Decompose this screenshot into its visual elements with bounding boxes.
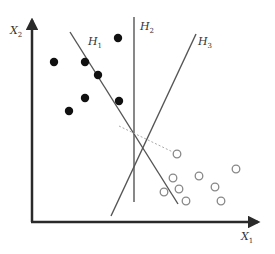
- class-filled-points: [50, 34, 123, 115]
- open-point: [160, 188, 168, 196]
- filled-point: [50, 58, 58, 66]
- hyperplanes: H1H2H3: [70, 17, 212, 216]
- open-point: [175, 185, 183, 193]
- open-point: [217, 197, 225, 205]
- open-point: [182, 197, 190, 205]
- hyperplane-h1: [70, 32, 178, 204]
- margin-line: [119, 126, 177, 154]
- margin-dashed-line: [119, 126, 177, 154]
- open-point: [232, 165, 240, 173]
- filled-point: [81, 58, 89, 66]
- hyperplane-label-h1: H1: [87, 35, 102, 50]
- open-point: [169, 174, 177, 182]
- open-point: [211, 183, 219, 191]
- filled-point: [115, 97, 123, 105]
- filled-point: [65, 107, 73, 115]
- filled-point: [114, 34, 122, 42]
- y-axis-label: X2: [9, 24, 22, 39]
- x-axis-label: X1: [240, 230, 253, 245]
- filled-point: [94, 71, 102, 79]
- hyperplane-label-h2: H2: [139, 20, 154, 35]
- hyperplane-diagram: X2 X1 H1H2H3: [0, 0, 275, 254]
- hyperplane-label-h3: H3: [197, 35, 212, 50]
- open-point: [173, 150, 181, 158]
- open-point: [195, 172, 203, 180]
- class-open-points: [160, 150, 240, 205]
- filled-point: [81, 94, 89, 102]
